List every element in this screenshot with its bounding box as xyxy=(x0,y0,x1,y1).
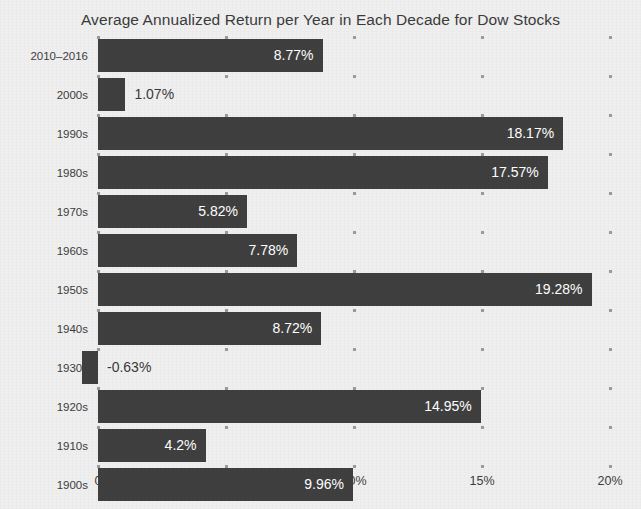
bar-value-label: 7.78% xyxy=(0,234,288,267)
x-tick-label: 20% xyxy=(597,474,622,488)
bar-value-label: 18.17% xyxy=(0,117,554,150)
bar-row[interactable]: 1950s19.28% xyxy=(0,270,641,309)
bar-row[interactable]: 1920s14.95% xyxy=(0,387,641,426)
bar-row[interactable]: 1910s4.2% xyxy=(0,426,641,465)
category-label: 1930s xyxy=(0,362,88,374)
bar[interactable] xyxy=(82,351,98,384)
bar-value-label: 5.82% xyxy=(0,195,238,228)
bar-value-label: -0.63% xyxy=(107,351,151,384)
bar-value-label: 4.2% xyxy=(0,429,197,462)
bar-row[interactable]: 1990s18.17% xyxy=(0,114,641,153)
bar-value-label: 17.57% xyxy=(0,156,539,189)
gridline-15pct xyxy=(481,36,484,468)
bar[interactable] xyxy=(98,78,125,111)
bar-chart: Average Annualized Return per Year in Ea… xyxy=(0,0,641,509)
bar-row[interactable]: 2010–20168.77% xyxy=(0,36,641,75)
bar-row[interactable]: 1930s-0.63% xyxy=(0,348,641,387)
gridline-20pct xyxy=(609,36,612,468)
bar-value-label: 14.95% xyxy=(0,390,472,423)
bar-value-label: 8.77% xyxy=(0,39,314,72)
bar-value-label: 19.28% xyxy=(0,273,583,306)
chart-title: Average Annualized Return per Year in Ea… xyxy=(0,11,641,29)
bar-value-label: 1.07% xyxy=(134,78,174,111)
bar-value-label: 8.72% xyxy=(0,312,312,345)
bar-value-label: 9.96% xyxy=(0,468,344,501)
bar-row[interactable]: 1960s7.78% xyxy=(0,231,641,270)
bar-row[interactable]: 1970s5.82% xyxy=(0,192,641,231)
category-label: 2000s xyxy=(0,89,88,101)
x-tick-label: 15% xyxy=(469,474,494,488)
plot-area: 2010–20168.77%2000s1.07%1990s18.17%1980s… xyxy=(0,36,641,468)
bar-row[interactable]: 1940s8.72% xyxy=(0,309,641,348)
bar-row[interactable]: 1980s17.57% xyxy=(0,153,641,192)
